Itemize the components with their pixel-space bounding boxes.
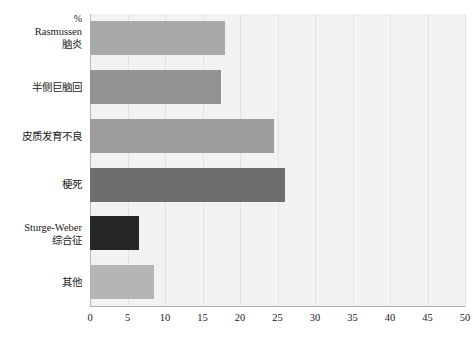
bar [90, 70, 221, 104]
x-tick-label: 10 [150, 312, 180, 323]
category-label-line: 综合征 [0, 234, 82, 247]
bar-row [90, 209, 465, 258]
bar-row [90, 14, 465, 63]
category-label-line: 梗死 [0, 178, 82, 191]
x-tick-label: 20 [225, 312, 255, 323]
bar [90, 168, 285, 202]
x-tick-label: 25 [263, 312, 293, 323]
bar-row [90, 112, 465, 161]
bar-row [90, 258, 465, 307]
category-label: Rasmussen脑炎 [0, 25, 86, 51]
bar [90, 21, 225, 55]
bar [90, 119, 274, 153]
x-tick-label: 5 [113, 312, 143, 323]
gridline [465, 14, 466, 307]
bar-row [90, 161, 465, 210]
x-tick-label: 35 [338, 312, 368, 323]
category-label: Sturge-Weber综合征 [0, 221, 86, 247]
x-tick-label: 30 [300, 312, 330, 323]
bar [90, 265, 154, 299]
x-tick-label: 15 [188, 312, 218, 323]
category-label: 其他 [0, 276, 86, 289]
category-label: 半侧巨脑回 [0, 81, 86, 94]
category-label-line: Rasmussen [0, 25, 82, 38]
bar-row [90, 63, 465, 112]
category-label-line: 皮质发育不良 [0, 130, 82, 143]
x-tick-label: 40 [375, 312, 405, 323]
category-label-line: Sturge-Weber [0, 221, 82, 234]
bar-chart: % Rasmussen脑炎半侧巨脑回皮质发育不良梗死Sturge-Weber综合… [0, 0, 473, 357]
category-label-line: 其他 [0, 276, 82, 289]
category-label-line: 半侧巨脑回 [0, 81, 82, 94]
category-label-line: 脑炎 [0, 38, 82, 51]
bars-layer [90, 14, 465, 307]
x-tick-label: 45 [413, 312, 443, 323]
unit-label: % [0, 13, 86, 24]
category-label: 梗死 [0, 178, 86, 191]
x-tick-label: 50 [450, 312, 473, 323]
category-label: 皮质发育不良 [0, 130, 86, 143]
x-tick-label: 0 [75, 312, 105, 323]
bar [90, 216, 139, 250]
